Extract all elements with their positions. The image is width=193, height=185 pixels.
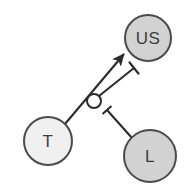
- junction-circle[interactable]: [87, 94, 101, 108]
- node-l-label: L: [145, 147, 155, 166]
- node-l[interactable]: L: [124, 130, 176, 182]
- node-t[interactable]: T: [24, 117, 72, 165]
- inhibition-bar-cap-upper: [129, 62, 139, 74]
- node-t-label: T: [43, 132, 54, 151]
- activation-arrow-line: [65, 54, 124, 124]
- inhibition-bar-line-lower: [107, 110, 132, 138]
- node-junction[interactable]: [87, 94, 101, 108]
- diagram-canvas: US T L: [0, 0, 193, 185]
- edge-t-activates-us: [65, 54, 124, 124]
- node-us-label: US: [136, 29, 161, 48]
- diagram-svg: US T L: [0, 0, 193, 185]
- inhibition-bar-line-upper: [99, 68, 134, 96]
- edge-l-inhibits-junction: [103, 106, 132, 138]
- edge-junction-inhibits-activation: [99, 62, 139, 96]
- node-us[interactable]: US: [125, 15, 171, 61]
